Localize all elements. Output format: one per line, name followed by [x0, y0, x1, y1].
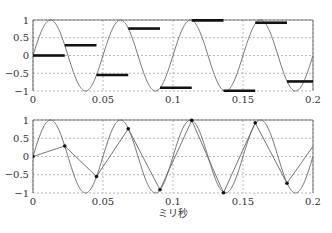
x-tick-label: 0.05	[92, 196, 114, 207]
y-tick-label: 1	[23, 15, 29, 26]
x-tick-label: 0	[30, 94, 36, 105]
sample-point	[95, 175, 99, 179]
sample-point	[285, 181, 289, 185]
y-tick-label: 0	[23, 151, 29, 162]
bottom-panel-linear-samples: 10.50−0.5−100.050.10.150.2	[5, 115, 321, 208]
y-tick-label: 0.5	[13, 133, 29, 144]
x-tick-label: 0.15	[232, 196, 254, 207]
y-tick-label: −0.5	[5, 68, 29, 79]
sample-point	[253, 121, 257, 125]
sample-point	[126, 127, 130, 131]
y-tick-label: −0.5	[5, 169, 29, 180]
figure: 10.50−0.5−100.050.10.150.2 10.50−0.5−100…	[0, 0, 332, 233]
x-tick-label: 0.1	[165, 94, 181, 105]
y-tick-label: 0	[23, 50, 29, 61]
sample-point	[222, 191, 226, 195]
y-tick-label: 1	[23, 115, 29, 126]
x-tick-label: 0.1	[165, 196, 181, 207]
y-tick-label: 0.5	[13, 32, 29, 43]
x-axis-label: ミリ秒	[158, 207, 188, 219]
chart-canvas: 10.50−0.5−100.050.10.150.2 10.50−0.5−100…	[0, 0, 332, 233]
sample-point	[63, 144, 67, 148]
x-tick-label: 0	[30, 196, 36, 207]
sample-point	[31, 155, 35, 159]
x-tick-label: 0.15	[232, 94, 254, 105]
linear-interp-line	[33, 120, 319, 192]
sample-point	[190, 119, 194, 123]
y-tick-label: −1	[14, 86, 29, 97]
x-tick-label: 0.2	[305, 94, 321, 105]
x-tick-label: 0.05	[92, 94, 114, 105]
x-tick-label: 0.2	[305, 196, 321, 207]
y-tick-label: −1	[14, 188, 29, 199]
sample-point	[158, 188, 162, 192]
top-panel-sample-and-hold: 10.50−0.5−100.050.10.150.2	[5, 15, 321, 106]
